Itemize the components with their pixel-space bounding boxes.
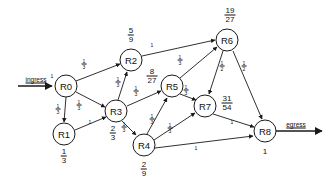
node-value-r1-den: 3 (61, 157, 67, 165)
ingress-label: ingress (26, 76, 47, 83)
edge-r6-r8 (233, 51, 262, 119)
edge-r0-r1 (64, 97, 66, 122)
egress-label: egress (286, 121, 306, 128)
edge-value-r0-r3: 1 3 (77, 100, 82, 111)
edge-value-r6-r7: 1 2 (220, 61, 225, 72)
edge-r5-r6 (180, 47, 217, 78)
value-ingress: 1 (50, 74, 55, 79)
edge-value-r0-r1: 1 3 (56, 104, 61, 115)
edge-value-r3-r2-den: 3 (116, 83, 121, 88)
diagram-canvas: R0 R1 R2 R3 R4 R5 R6 R7 (0, 0, 331, 185)
edge-r4-r8 (155, 136, 253, 148)
node-label-r1: R1 (58, 129, 70, 140)
edge-value-r4-r7-den: 3 (168, 129, 173, 134)
value-ingress-num: 1 (50, 74, 55, 79)
node-label-r8: R8 (259, 126, 271, 137)
edge-r3-r5 (127, 91, 161, 106)
node-r1[interactable]: R1 (53, 123, 75, 145)
edge-value-r4-r5: 1 3 (150, 114, 155, 125)
edge-r6-r7 (209, 51, 223, 94)
edge-value-r3-r5-den: 3 (134, 92, 139, 97)
node-value-r2-den: 9 (128, 36, 134, 44)
node-r5[interactable]: R5 (161, 75, 183, 97)
edge-value-r4-r7: 1 3 (168, 123, 173, 134)
edge-value-r6-r8-den: 2 (242, 67, 247, 72)
edge-value-r4-r8-num: 1 (194, 146, 199, 151)
node-value-r5-den: 27 (147, 77, 158, 85)
node-r8[interactable]: R8 (254, 120, 276, 142)
edge-value-r3-r4-den: 3 (122, 128, 127, 133)
edge-value-r0-r2: 1 3 (82, 59, 87, 70)
node-value-r3: 2 3 (110, 125, 116, 142)
node-r3[interactable]: R3 (105, 100, 127, 122)
node-label-r0: R0 (60, 81, 72, 92)
edge-value-r0-r1-den: 3 (56, 110, 61, 115)
node-label-r6: R6 (221, 35, 233, 46)
edge-value-r5-r7: 1 3 (184, 85, 189, 96)
edge-value-r3-r5: 1 3 (134, 86, 139, 97)
edge-value-r7-r8: 1 (230, 120, 235, 125)
network-flow-diagram: R0 R1 R2 R3 R4 R5 R6 R7 (0, 0, 331, 185)
node-value-r5: 8 27 (147, 68, 158, 85)
node-value-r1: 1 3 (61, 148, 67, 165)
node-label-r4: R4 (138, 140, 150, 151)
node-value-r3-den: 3 (110, 134, 116, 142)
node-r0[interactable]: R0 (55, 75, 77, 97)
node-r4[interactable]: R4 (133, 134, 155, 156)
node-label-r5: R5 (166, 81, 178, 92)
edge-value-r3-r2: 1 3 (116, 77, 121, 88)
edge-value-r2-r6: 1 (150, 43, 155, 48)
node-r6[interactable]: R6 (216, 29, 238, 51)
node-value-r6: 19 27 (225, 7, 236, 24)
node-value-r2: 5 9 (128, 27, 134, 44)
node-value-r7-den: 54 (222, 104, 233, 112)
edge-value-r0-r2-den: 3 (82, 65, 87, 70)
edge-value-r7-r8-num: 1 (230, 120, 235, 125)
node-value-r4-den: 9 (141, 170, 147, 178)
node-r7[interactable]: R7 (194, 95, 216, 117)
edge-value-r3-r4: 1 3 (122, 122, 127, 133)
edge-value-r0-r3-den: 3 (77, 106, 82, 111)
edge-value-r4-r5-den: 3 (150, 120, 155, 125)
node-value-r6-den: 27 (225, 16, 236, 24)
node-value-r4: 2 9 (141, 161, 147, 178)
edge-value-r1-r3-num: 1 (88, 120, 93, 125)
edge-value-r5-r7-den: 3 (184, 91, 189, 96)
edge-r4-r7 (154, 113, 195, 140)
node-value-r7: 31 54 (222, 95, 233, 112)
node-label-r2: R2 (125, 55, 137, 66)
edge-value-r5-r6: 1 3 (178, 55, 183, 66)
node-value-r8-num: 1 (262, 148, 268, 156)
node-value-r8: 1 (262, 148, 268, 156)
node-label-r7: R7 (199, 101, 211, 112)
edge-value-r2-r6-num: 1 (150, 43, 155, 48)
node-label-r3: R3 (110, 106, 122, 117)
edge-value-r5-r6-den: 3 (178, 61, 183, 66)
edge-value-r6-r8: 1 2 (242, 61, 247, 72)
edge-value-r1-r3: 1 (88, 120, 93, 125)
edge-value-r6-r7-den: 2 (220, 67, 225, 72)
edge-value-r4-r8: 1 (194, 146, 199, 151)
node-r2[interactable]: R2 (120, 49, 142, 71)
